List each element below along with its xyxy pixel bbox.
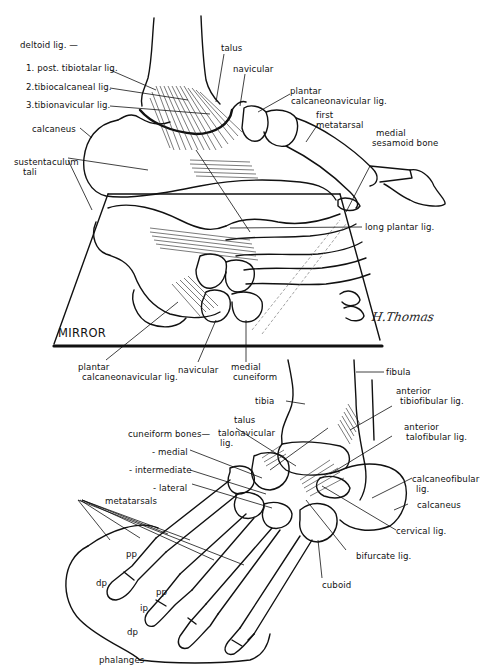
label-talus-top: talus	[221, 43, 242, 53]
anatomy-figure: deltoid lig. — 1. post. tibiotalar lig. …	[0, 0, 489, 672]
label-cuneiform-bones: cuneiform bones—	[128, 429, 210, 439]
label-posterior-tibiotalar-ligament: 1. post. tibiotalar lig.	[26, 63, 118, 73]
top-medial-view-drawing	[84, 16, 445, 211]
label-fibula: fibula	[386, 367, 411, 377]
label-sustentaculum-tali: sustentaculum tali	[14, 157, 79, 177]
label-proximal-phalanx-1: pp	[126, 549, 137, 559]
label-cervical-ligament: cervical lig.	[396, 526, 446, 536]
label-calcaneus-bottom: calcaneus	[417, 500, 461, 510]
label-intermediate-cuneiform: - intermediate	[129, 465, 192, 475]
label-medial-cuneiform: - medial	[152, 447, 188, 457]
label-talonavicular-ligament: talonavicular lig.	[218, 428, 275, 448]
label-cuboid: cuboid	[322, 580, 351, 590]
label-lateral-cuneiform: - lateral	[153, 483, 187, 493]
label-anterior-tibiofibular-ligament: anterior tibiofibular lig.	[396, 386, 464, 406]
label-intermediate-phalanx: ip	[140, 603, 148, 613]
label-anterior-talofibular-ligament: anterior talofibular lig.	[404, 422, 467, 442]
label-deltoid-ligament: deltoid lig. —	[20, 40, 78, 50]
label-plantar-calcaneonavicular-ligament-mirror: plantar calcaneonavicular lig.	[78, 362, 178, 382]
label-first-metatarsal: first metatarsal	[316, 110, 364, 130]
label-proximal-phalanx-2: pp	[156, 587, 167, 597]
label-tibiocalcaneal-ligament: 2.tibiocalcaneal lig.	[26, 82, 112, 92]
mirror-reflection-drawing	[94, 205, 370, 334]
label-calcaneofibular-ligament: calcaneofibular lig.	[412, 474, 479, 494]
label-phalanges: phalanges	[99, 655, 144, 665]
label-bifurcate-ligament: bifurcate lig.	[356, 551, 411, 561]
label-mirror: MIRROR	[58, 328, 106, 338]
label-talus-bottom: talus	[234, 415, 255, 425]
label-plantar-calcaneonavicular-ligament-top: plantar calcaneonavicular lig.	[290, 86, 387, 106]
label-calcaneus-top: calcaneus	[32, 124, 76, 134]
label-tibia: tibia	[255, 396, 274, 406]
bottom-lateral-view-drawing	[66, 360, 406, 663]
label-metatarsals: metatarsals	[105, 496, 157, 506]
label-medial-cuneiform-mirror: medial cuneiform	[231, 362, 277, 382]
label-distal-phalanx-2: dp	[127, 627, 138, 637]
label-navicular-top: navicular	[233, 64, 273, 74]
artist-signature: H.Thomas	[371, 310, 435, 324]
label-navicular-mirror: navicular	[178, 365, 218, 375]
label-long-plantar-ligament: long plantar lig.	[365, 222, 434, 232]
label-tibionavicular-ligament: 3.tibionavicular lig.	[26, 100, 110, 110]
label-medial-sesamoid-bone: medial sesamoid bone	[372, 128, 438, 148]
label-distal-phalanx-1: dp	[96, 578, 107, 588]
